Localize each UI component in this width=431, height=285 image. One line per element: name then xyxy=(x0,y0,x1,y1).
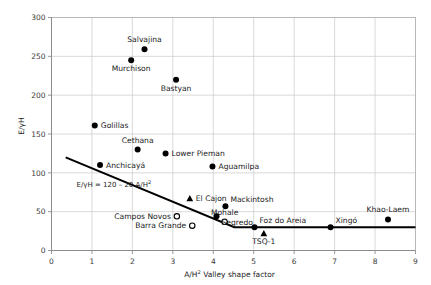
marker-filled-triangle xyxy=(260,230,267,236)
marker-filled-circle xyxy=(142,46,148,52)
data-point: Cethana xyxy=(122,136,154,153)
x-tick-label: 4 xyxy=(211,257,216,266)
marker-filled-circle xyxy=(214,213,220,219)
marker-filled-circle xyxy=(92,122,98,128)
marker-filled-circle xyxy=(173,77,179,83)
data-point-label: Segredo xyxy=(222,218,254,227)
x-axis-title: A/H2 Valley shape factor xyxy=(184,269,276,279)
data-point-label: Barra Grande xyxy=(135,221,186,230)
data-point-label: Golillas xyxy=(101,121,129,130)
data-point-label: TSQ-1 xyxy=(251,237,275,246)
data-point: Campos Novos xyxy=(114,212,179,221)
y-tick-label: 250 xyxy=(31,52,46,61)
marker-filled-circle xyxy=(135,147,141,153)
data-point: Bastyan xyxy=(161,77,192,93)
marker-open-circle xyxy=(190,223,195,228)
x-tick-label: 1 xyxy=(90,257,95,266)
data-point-label: Bastyan xyxy=(161,84,192,93)
x-tick-label: 8 xyxy=(373,257,378,266)
data-point-label: Aguamilpa xyxy=(218,162,259,171)
y-tick-label: 50 xyxy=(36,207,46,216)
data-point-label: Khao-Laem xyxy=(367,205,410,214)
data-point-label: El Cajon xyxy=(196,194,227,203)
x-tick-label: 5 xyxy=(251,257,256,266)
marker-filled-circle xyxy=(163,150,169,156)
valley-shape-factor-chart: 0123456789050100150200250300A/H2 Valley … xyxy=(0,0,431,285)
marker-filled-circle xyxy=(97,162,103,168)
marker-filled-triangle xyxy=(186,195,193,201)
y-tick-label: 300 xyxy=(31,13,46,22)
x-tick-label: 0 xyxy=(49,257,54,266)
data-point: Khao-Laem xyxy=(367,205,410,222)
data-point-label: Lower Pieman xyxy=(172,149,225,158)
y-axis-title: E/γH xyxy=(17,117,26,134)
x-tick-label: 7 xyxy=(332,257,337,266)
data-point-label: Murchison xyxy=(112,64,151,73)
y-tick-label: 150 xyxy=(31,130,46,139)
chart-canvas: 0123456789050100150200250300A/H2 Valley … xyxy=(0,0,431,285)
y-tick-label: 100 xyxy=(31,169,46,178)
data-point: Murchison xyxy=(112,57,151,73)
data-point-label: Salvajina xyxy=(127,35,161,44)
data-point: Anchicayá xyxy=(97,161,145,170)
x-tick-label: 6 xyxy=(292,257,297,266)
data-point-label: Cethana xyxy=(122,136,154,145)
y-tick-label: 200 xyxy=(31,91,46,100)
x-tick-label: 2 xyxy=(130,257,135,266)
marker-filled-circle xyxy=(209,164,215,170)
x-tick-label: 3 xyxy=(170,257,175,266)
marker-filled-circle xyxy=(385,216,391,222)
data-point-label: Foz do Areia xyxy=(260,216,307,225)
marker-filled-circle xyxy=(252,224,258,230)
marker-open-circle xyxy=(174,214,179,219)
data-point: TSQ-1 xyxy=(251,230,275,246)
x-tick-label: 9 xyxy=(413,257,418,266)
data-point: Lower Pieman xyxy=(163,149,225,158)
data-point-label: Anchicayá xyxy=(106,161,145,170)
y-tick-label: 0 xyxy=(41,246,46,255)
marker-filled-circle xyxy=(328,224,334,230)
data-point-label: Mackintosh xyxy=(230,195,273,204)
trend-line-equation: E/γH = 120 – 20 A/H2 xyxy=(77,179,152,188)
data-point-label: Campos Novos xyxy=(114,212,171,221)
data-point: Golillas xyxy=(92,121,129,130)
data-point: El Cajon xyxy=(186,194,226,203)
data-point: Barra Grande xyxy=(135,221,195,230)
marker-filled-circle xyxy=(128,57,134,63)
data-point-label: Xingó xyxy=(336,216,358,225)
data-point: Aguamilpa xyxy=(209,162,259,171)
